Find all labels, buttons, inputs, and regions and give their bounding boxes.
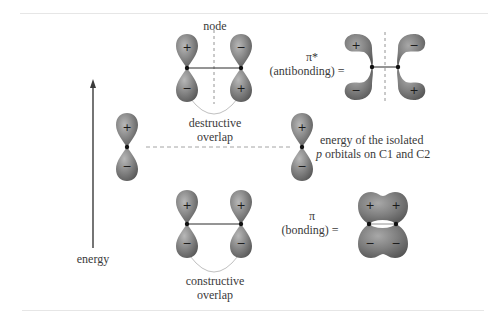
destructive-overlap-arc xyxy=(190,98,238,114)
sign-minus: − xyxy=(236,42,245,53)
isolated-energy-label-2: p orbitals on C1 and C2 xyxy=(316,147,430,161)
destructive-overlap-label-1: destructive xyxy=(189,116,242,130)
node-label: node xyxy=(203,19,226,33)
sign-minus: − xyxy=(351,85,360,96)
sign-minus: − xyxy=(365,238,374,249)
sign-plus: + xyxy=(297,122,306,133)
antibonding-label: (antibonding) = xyxy=(269,64,344,78)
energy-axis-label: energy xyxy=(77,252,109,266)
sign-minus: − xyxy=(122,161,131,172)
sign-minus: − xyxy=(236,238,245,249)
sign-minus: − xyxy=(391,238,400,249)
bonding-label: (bonding) = xyxy=(281,223,338,237)
isolated-energy-label-1: energy of the isolated xyxy=(320,133,423,147)
sign-plus: + xyxy=(182,200,191,211)
sign-minus: − xyxy=(297,161,306,172)
sign-plus: + xyxy=(391,200,400,211)
sign-plus: + xyxy=(122,122,131,133)
sign-plus: + xyxy=(409,85,418,96)
mo-diagram: .sign { position: absolute; font-family:… xyxy=(0,0,488,317)
pi-star-symbol: π* xyxy=(306,50,318,64)
sign-plus: + xyxy=(236,200,245,211)
constructive-overlap-label-1: constructive xyxy=(186,274,245,288)
sign-minus: − xyxy=(182,83,191,94)
orbital-text: orbitals on C1 and C2 xyxy=(322,147,430,161)
sign-plus: + xyxy=(365,200,374,211)
constructive-overlap-label-2: overlap xyxy=(197,288,233,302)
pi-symbol: π xyxy=(309,209,315,223)
constructive-overlap-arc xyxy=(190,256,238,272)
sign-plus: + xyxy=(351,40,360,51)
energy-arrow xyxy=(90,79,96,248)
sign-minus: − xyxy=(182,238,191,249)
sign-minus: − xyxy=(409,40,418,51)
sign-plus: + xyxy=(182,42,191,53)
sign-plus: + xyxy=(236,83,245,94)
destructive-overlap-label-2: overlap xyxy=(197,130,233,144)
